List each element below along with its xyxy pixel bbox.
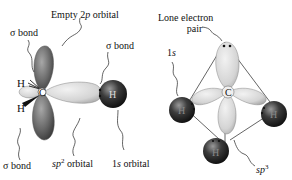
label-sp3: sp3: [256, 164, 268, 175]
bond-electron: [99, 89, 101, 91]
bond-electron: [218, 140, 220, 142]
h-letter-bottom: H: [212, 147, 219, 158]
label-sigma-bond-top-left: σ bond: [10, 27, 38, 38]
lone-pair-electron: [223, 45, 226, 48]
label-text: s: [172, 47, 176, 58]
label-text: sp: [52, 158, 61, 169]
pointer-sp3: [234, 140, 255, 166]
pointer-sp2: [73, 118, 80, 156]
lone-pair-lobe: [216, 42, 239, 90]
carbon-letter-left: C: [39, 87, 46, 98]
bond-electron: [263, 107, 265, 109]
label-text: 3: [265, 163, 269, 171]
label-sp2-orbital: sp2 orbital: [52, 158, 93, 169]
h-letter-left: H: [178, 105, 185, 116]
empty-2p-lower-lobe: [32, 92, 54, 140]
pointer-1s-right: [172, 62, 178, 96]
pointer-empty-2p: [62, 18, 81, 46]
label-text: orbital: [90, 9, 119, 20]
label-lone-electron-pair: Lone electron pair: [158, 12, 213, 34]
pointer-sigma-top-right: [100, 52, 109, 84]
label-sigma-bond-top-right: σ bond: [106, 40, 134, 51]
h-letter-right: H: [109, 89, 116, 100]
h-label-lower: H: [17, 103, 25, 114]
bond-electron: [193, 108, 195, 110]
label-1s-orbital: 1s orbital: [112, 158, 150, 169]
bond-electron: [212, 140, 214, 142]
carbon-letter-right: C: [225, 87, 232, 98]
label-text: sp: [256, 164, 265, 175]
bond-electron: [261, 112, 263, 114]
pointer-sigma-bottom: [18, 128, 21, 160]
sp2-orbital-lobe: [44, 82, 103, 103]
sp3-bottom-lobe: [218, 94, 236, 134]
label-text: orbital: [64, 158, 93, 169]
h-letter-right-sp3: H: [270, 109, 277, 120]
h-label-upper: H: [17, 78, 25, 89]
label-text: orbital: [121, 158, 150, 169]
label-empty-2p-orbital: Empty 2p orbital: [51, 9, 119, 20]
bond-electron: [191, 103, 193, 105]
label-sigma-bond-bottom: σ bond: [3, 160, 31, 171]
empty-2p-upper-lobe: [34, 46, 54, 92]
label-text: Empty 2: [51, 9, 85, 20]
lone-pair-electron: [229, 45, 232, 48]
label-text: Lone electron: [158, 12, 213, 23]
pointer-1s: [118, 110, 125, 150]
pointer-sigma-top-left: [28, 40, 34, 72]
bond-electron: [99, 95, 101, 97]
orbital-diagram-canvas: C H C H H H: [0, 0, 292, 180]
label-text: pair: [158, 23, 213, 34]
label-1s-right: 1s: [167, 47, 176, 58]
